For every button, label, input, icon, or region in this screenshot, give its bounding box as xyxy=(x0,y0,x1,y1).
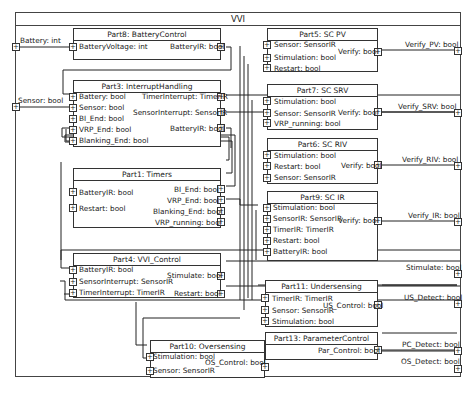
port[interactable] xyxy=(69,115,77,123)
port-label: BatteryIR: bool xyxy=(170,124,224,133)
port-label: BatteryVoltage: int xyxy=(79,42,148,51)
part-title: Part1: Timers xyxy=(74,169,220,181)
port-label: Stimulate: bool xyxy=(167,271,222,280)
port[interactable] xyxy=(263,237,271,245)
port[interactable] xyxy=(263,151,271,159)
port[interactable] xyxy=(263,119,271,127)
battery-input-label: Battery: int xyxy=(20,36,61,45)
stimulate-label: Stimulate: bool xyxy=(406,263,461,272)
port[interactable] xyxy=(69,93,77,101)
port-label: BatteryIR: bool xyxy=(273,247,327,256)
verify-srv-label: Verify_SRV: bool xyxy=(398,102,456,111)
port-label: Sensor: SensorIR xyxy=(153,366,215,375)
port-label: Stimulation: bool xyxy=(274,53,336,62)
port-label: Stimulation: bool xyxy=(274,97,336,106)
part-title: Part13: ParameterControl xyxy=(266,333,377,345)
verify-ir-label: Verify_IR: bool xyxy=(408,211,460,220)
os-detect-label: OS_Detect: bool xyxy=(401,357,460,366)
port[interactable] xyxy=(263,215,271,223)
port[interactable] xyxy=(263,226,271,234)
verify-pv-label: Verify_PV: bool xyxy=(405,40,459,49)
port-label: Restart: bool xyxy=(273,236,320,245)
port[interactable] xyxy=(69,204,77,212)
sensor-input-label: Sensor: bool xyxy=(18,96,63,105)
port-label: BatteryIR: bool xyxy=(79,188,133,197)
port-label: VRP_End: bool xyxy=(167,196,219,205)
port-label: Blanking_End: bool xyxy=(79,136,149,145)
port[interactable] xyxy=(261,294,269,302)
port[interactable] xyxy=(69,104,77,112)
port-label: BatteryIR: bool xyxy=(79,265,133,274)
port[interactable] xyxy=(69,188,77,196)
port-label: Stimulation: bool xyxy=(274,151,336,160)
port[interactable] xyxy=(69,266,77,274)
port-label: SensorInterrupt: SensorIR xyxy=(133,108,227,117)
port-label: Sensor: SensorIR xyxy=(274,40,336,49)
port-label: Restart: bool xyxy=(274,162,321,171)
part-title: Part7: SC SRV xyxy=(268,85,377,97)
port-label: BatteryIR: bool xyxy=(170,42,224,51)
port-label: Stimulation: bool xyxy=(273,203,335,212)
port[interactable] xyxy=(69,278,77,286)
port-label: OS_Control: bool xyxy=(205,358,266,367)
port-label: Verify: bool xyxy=(341,161,382,170)
port-label: Sensor: SensorIR xyxy=(274,173,336,182)
port[interactable] xyxy=(69,289,77,297)
port[interactable] xyxy=(261,306,269,314)
system-title: VVI xyxy=(16,13,460,26)
port[interactable] xyxy=(69,43,77,51)
part-title: Part11: Undersensing xyxy=(266,281,377,293)
port[interactable] xyxy=(263,109,271,117)
port-label: SensorIR: SensorIR xyxy=(273,214,342,223)
port[interactable] xyxy=(69,126,77,134)
port[interactable] xyxy=(263,204,271,212)
port-label: VRP_running: bool xyxy=(274,119,341,128)
port-label: SensorInterrupt: SensorIR xyxy=(79,277,173,286)
port-label: Restart: bool xyxy=(174,289,221,298)
verify-riv-label: Verify_RIV: bool xyxy=(402,155,458,164)
port[interactable] xyxy=(263,174,271,182)
port-label: TimerInterrupt: TimerIR xyxy=(79,288,165,297)
port-label: Verify: bool xyxy=(338,47,379,56)
port[interactable] xyxy=(69,137,77,145)
port-label: BI_End: bool xyxy=(174,185,219,194)
port-label: BI_End: bool xyxy=(79,114,124,123)
port[interactable] xyxy=(263,162,271,170)
port[interactable] xyxy=(263,54,271,62)
port-label: VRP_End: bool xyxy=(79,125,131,134)
port[interactable] xyxy=(263,97,271,105)
part-title: Part6: SC RIV xyxy=(268,139,377,151)
port-label: Restart: bool xyxy=(79,204,126,213)
port-label: Restart: bool xyxy=(274,64,321,73)
os-detect-port[interactable] xyxy=(454,365,462,373)
part-title: Part8: BatteryControl xyxy=(74,29,220,41)
port-label: Verify: bool xyxy=(338,108,379,117)
port-label: US_Control: bool xyxy=(323,301,383,310)
pc-detect-label: PC_Detect: bool xyxy=(402,340,460,349)
port-label: Stimulation: bool xyxy=(272,317,334,326)
port-label: Blanking_End: bool xyxy=(153,207,223,216)
port[interactable] xyxy=(263,41,271,49)
us-detect-label: US_Detect: bool xyxy=(404,293,462,302)
port-label: Sensor: bool xyxy=(79,103,124,112)
port-label: TimerIR: TimerIR xyxy=(273,225,334,234)
port-label: VRP_running: bool xyxy=(155,218,222,227)
port[interactable] xyxy=(261,317,269,325)
port-label: TimerInterrupt: TimerIR xyxy=(142,92,228,101)
battery-input-port[interactable] xyxy=(12,43,20,51)
port-label: Battery: bool xyxy=(79,92,126,101)
port-label: Verify: bool xyxy=(338,216,379,225)
port-label: Sensor: SensorIR xyxy=(274,109,336,118)
port[interactable] xyxy=(263,64,271,72)
port[interactable] xyxy=(263,248,271,256)
port-label: Par_Control: bool xyxy=(318,346,380,355)
